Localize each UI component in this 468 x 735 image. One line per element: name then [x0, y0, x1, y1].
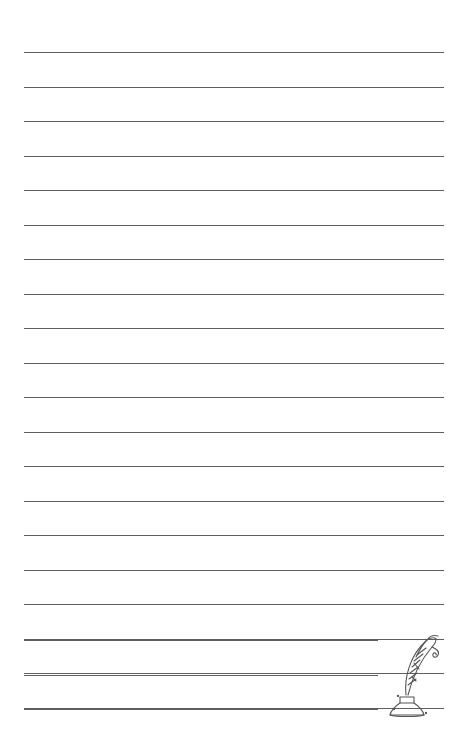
ruled-line: [24, 570, 444, 571]
ruled-line: [24, 225, 444, 226]
ruled-line: [24, 156, 444, 157]
ruled-line: [24, 604, 444, 605]
ruled-line: [24, 87, 444, 88]
ruled-line: [24, 259, 444, 260]
ruled-line: [24, 501, 444, 502]
ruled-line: [24, 397, 444, 398]
ruled-line: [24, 466, 444, 467]
ruled-line: [24, 363, 444, 364]
quill-and-inkwell-icon: [386, 633, 442, 719]
ruled-line-short: [24, 640, 378, 641]
ruled-line: [24, 121, 444, 122]
ruled-line: [24, 432, 444, 433]
ruled-line: [24, 294, 444, 295]
ruled-line: [24, 328, 444, 329]
ruled-line: [24, 673, 444, 674]
ruled-line-short: [24, 675, 378, 676]
ruled-line-short: [24, 709, 378, 710]
lined-paper-page: [0, 0, 468, 735]
ruled-line: [24, 190, 444, 191]
ruled-line: [24, 535, 444, 536]
ruled-line: [24, 52, 444, 53]
